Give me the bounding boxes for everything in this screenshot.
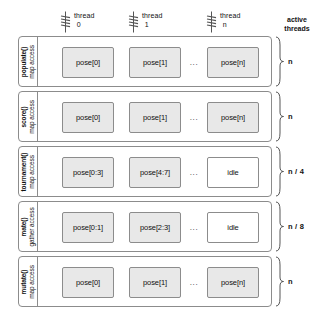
- thread-cell: pose[n]: [207, 47, 259, 78]
- stage-row-mutate: mutate() map access pose[0] pose[1] ... …: [18, 256, 272, 307]
- stage-row-populate: populate() map access pose[0] pose[1] ..…: [18, 36, 272, 87]
- thread-header-label-n: thread n: [220, 10, 240, 29]
- thread-cell: pose[4:7]: [129, 157, 181, 188]
- ellipsis: ...: [184, 267, 204, 298]
- stage-body: pose[0:3] pose[4:7] ... idle: [38, 147, 271, 196]
- thread-cell-idle: idle: [207, 212, 259, 243]
- ellipsis: ...: [184, 157, 204, 188]
- thread-squiggle-icon: [60, 11, 71, 33]
- thread-cell: pose[1]: [129, 47, 181, 78]
- active-threads-value: n: [288, 36, 318, 87]
- stage-access-name: gather access: [28, 202, 36, 251]
- thread-cell: pose[2:3]: [129, 212, 181, 243]
- thread-cell: pose[1]: [129, 102, 181, 133]
- stage-body: pose[0] pose[1] ... pose[n]: [38, 37, 271, 86]
- stage-function-name: mate(): [20, 202, 28, 251]
- stage-body: pose[0:1] pose[2:3] ... idle: [38, 202, 271, 251]
- thread-header-label-1: thread 1: [142, 10, 162, 29]
- stage-function-name: tournament(): [20, 147, 28, 196]
- active-threads-value: n: [288, 256, 318, 307]
- stage-brace: [275, 91, 284, 142]
- stage-access-name: map access: [28, 257, 36, 306]
- stage-brace: [275, 201, 284, 252]
- stage-access-name: map access: [28, 147, 36, 196]
- active-threads-value: n / 4: [288, 146, 318, 197]
- stage-row-tournament: tournament() map access pose[0:3] pose[4…: [18, 146, 272, 197]
- active-threads-header: active threads: [276, 16, 318, 33]
- stage-body: pose[0] pose[1] ... pose[n]: [38, 92, 271, 141]
- thread-header-n: thread n: [206, 10, 280, 34]
- thread-squiggle-icon: [206, 11, 217, 33]
- thread-cell: pose[1]: [129, 267, 181, 298]
- thread-cell: pose[0]: [62, 102, 114, 133]
- ellipsis: ...: [184, 212, 204, 243]
- stage-function-name: score(): [20, 92, 28, 141]
- thread-cell-idle: idle: [207, 157, 259, 188]
- stage-access-name: map access: [28, 37, 36, 86]
- active-threads-header-line1: active: [276, 16, 318, 25]
- stage-function-name: mutate(): [20, 257, 28, 306]
- stage-brace: [275, 36, 284, 87]
- stage-label-score: score() map access: [19, 92, 38, 141]
- stage-label-mutate: mutate() map access: [19, 257, 38, 306]
- thread-squiggle-icon: [128, 11, 139, 33]
- thread-cell: pose[0:3]: [62, 157, 114, 188]
- stage-label-tournament: tournament() map access: [19, 147, 38, 196]
- stage-function-name: populate(): [20, 37, 28, 86]
- thread-header-row: thread 0 thread 1: [46, 10, 274, 34]
- ellipsis: ...: [184, 47, 204, 78]
- thread-cell: pose[0]: [62, 267, 114, 298]
- stage-brace: [275, 146, 284, 197]
- thread-cell: pose[0:1]: [62, 212, 114, 243]
- stage-row-score: score() map access pose[0] pose[1] ... p…: [18, 91, 272, 142]
- ellipsis: ...: [184, 102, 204, 133]
- stage-label-populate: populate() map access: [19, 37, 38, 86]
- stage-label-mate: mate() gather access: [19, 202, 38, 251]
- active-threads-header-line2: threads: [276, 25, 318, 34]
- thread-header-1: thread 1: [128, 10, 202, 34]
- thread-cell: pose[n]: [207, 267, 259, 298]
- active-threads-value: n: [288, 91, 318, 142]
- thread-header-0: thread 0: [60, 10, 134, 34]
- thread-cell: pose[n]: [207, 102, 259, 133]
- stage-brace: [275, 256, 284, 307]
- active-threads-value: n / 8: [288, 201, 318, 252]
- stage-access-name: map access: [28, 92, 36, 141]
- stage-body: pose[0] pose[1] ... pose[n]: [38, 257, 271, 306]
- thread-cell: pose[0]: [62, 47, 114, 78]
- thread-header-label-0: thread 0: [74, 10, 94, 29]
- stage-row-mate: mate() gather access pose[0:1] pose[2:3]…: [18, 201, 272, 252]
